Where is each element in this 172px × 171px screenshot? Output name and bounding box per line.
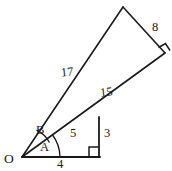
right-angle-marker-base bbox=[89, 147, 99, 157]
right-angle-marker-outer bbox=[159, 44, 171, 51]
side-label-5: 5 bbox=[70, 127, 76, 140]
side-label-15: 15 bbox=[99, 85, 113, 99]
angle-arc-a bbox=[52, 135, 60, 158]
vertex-label-o: O bbox=[4, 152, 14, 166]
side-label-8: 8 bbox=[152, 21, 158, 34]
side-label-17: 17 bbox=[60, 65, 74, 79]
side-label-3: 3 bbox=[104, 127, 110, 140]
geometry-figure-svg bbox=[0, 0, 172, 171]
geometry-diagram: 17 8 15 5 3 4 A B O bbox=[0, 0, 172, 171]
side-label-4: 4 bbox=[57, 158, 63, 171]
angle-label-b: B bbox=[36, 124, 44, 137]
segment-8-line bbox=[123, 7, 165, 53]
angle-label-a: A bbox=[40, 141, 49, 154]
